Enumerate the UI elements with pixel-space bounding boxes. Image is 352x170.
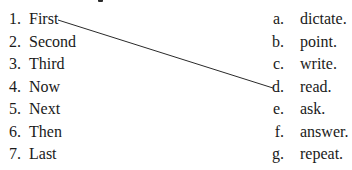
- left-item-1[interactable]: 1. First: [9, 8, 76, 31]
- item-word: write.: [300, 53, 337, 76]
- match-line-1-to-d[interactable]: [58, 20, 273, 88]
- left-item-2[interactable]: 2. Second: [9, 31, 76, 54]
- right-item-a[interactable]: a. dictate.: [270, 8, 348, 31]
- item-word: Now: [29, 76, 60, 99]
- right-item-d[interactable]: d. read.: [270, 76, 348, 99]
- item-number: 1.: [9, 8, 29, 31]
- item-number: 6.: [9, 121, 29, 144]
- item-letter: a.: [260, 8, 300, 31]
- item-number: 4.: [9, 76, 29, 99]
- item-word: Next: [29, 98, 60, 121]
- heading-fragment: [98, 0, 103, 2]
- item-letter: g.: [260, 143, 300, 166]
- item-word: answer.: [300, 121, 348, 144]
- left-item-4[interactable]: 4. Now: [9, 76, 76, 99]
- right-item-b[interactable]: b. point.: [270, 31, 348, 54]
- item-number: 2.: [9, 31, 29, 54]
- item-word: ask.: [300, 98, 325, 121]
- item-word: dictate.: [300, 8, 347, 31]
- item-number: 5.: [9, 98, 29, 121]
- left-column-list: 1. First 2. Second 3. Third 4. Now 5. Ne…: [9, 8, 76, 166]
- right-item-f[interactable]: f. answer.: [270, 121, 348, 144]
- item-word: read.: [300, 76, 332, 99]
- item-word: Then: [29, 121, 62, 144]
- item-letter: e.: [260, 98, 300, 121]
- item-letter: b.: [260, 31, 300, 54]
- right-item-c[interactable]: c. write.: [270, 53, 348, 76]
- item-word: First: [29, 8, 58, 31]
- clipped-heading: [0, 0, 120, 2]
- item-word: repeat.: [300, 143, 343, 166]
- item-number: 7.: [9, 143, 29, 166]
- item-word: Third: [29, 53, 65, 76]
- item-letter: d.: [260, 76, 300, 99]
- item-letter: c.: [260, 53, 300, 76]
- right-column-list: a. dictate. b. point. c. write. d. read.…: [270, 8, 348, 166]
- left-item-7[interactable]: 7. Last: [9, 143, 76, 166]
- item-number: 3.: [9, 53, 29, 76]
- item-letter: f.: [260, 121, 300, 144]
- left-item-5[interactable]: 5. Next: [9, 98, 76, 121]
- left-item-6[interactable]: 6. Then: [9, 121, 76, 144]
- item-word: Second: [29, 31, 76, 54]
- right-item-e[interactable]: e. ask.: [270, 98, 348, 121]
- item-word: Last: [29, 143, 57, 166]
- right-item-g[interactable]: g. repeat.: [270, 143, 348, 166]
- item-word: point.: [300, 31, 337, 54]
- left-item-3[interactable]: 3. Third: [9, 53, 76, 76]
